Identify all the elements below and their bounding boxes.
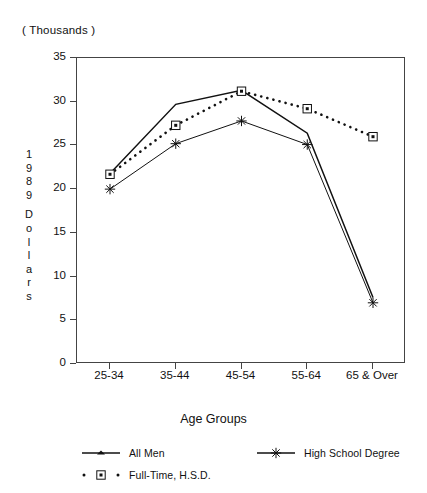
- plot-area: [76, 57, 405, 363]
- marker-boxed-dot: [369, 132, 377, 140]
- plot-canvas: [77, 58, 406, 364]
- y-axis-title: 1989Dollars: [22, 148, 36, 304]
- legend-item[interactable]: Full-Time, H.S.D.: [80, 469, 211, 481]
- y-tick-label: 35: [24, 51, 66, 63]
- legend-symbol-boxed-dot-icon: [80, 469, 122, 481]
- marker-star: [302, 139, 312, 149]
- legend-symbol-line-plain-icon: [80, 447, 122, 459]
- marker-boxed-dot: [237, 87, 245, 95]
- y-axis-title-char: o: [22, 222, 36, 236]
- marker-boxed-dot: [106, 170, 114, 178]
- marker-star: [105, 184, 115, 194]
- y-tick-label: 5: [24, 313, 66, 325]
- units-note: ( Thousands ): [22, 24, 95, 36]
- x-axis-title: Age Groups: [0, 412, 427, 426]
- legend-label: All Men: [129, 447, 165, 459]
- marker-boxed-dot: [97, 471, 105, 479]
- legend-label: High School Degree: [304, 447, 400, 459]
- x-tick-label: 35-44: [160, 369, 189, 381]
- y-tick-mark: [70, 363, 76, 364]
- legend-item[interactable]: All Men: [80, 447, 165, 459]
- chart-legend: All MenHigh School DegreeFull-Time, H.S.…: [0, 445, 427, 491]
- y-axis-title-char: l: [22, 249, 36, 263]
- y-axis-title-char: r: [22, 276, 36, 290]
- series-high-school-degree: [105, 116, 378, 308]
- series-full-time-h-s-d: [106, 87, 377, 178]
- x-tick-label: 65 & Over: [346, 369, 398, 381]
- marker-star: [171, 138, 181, 148]
- y-axis-title-char: 9: [22, 189, 36, 203]
- x-tick-label: 45-54: [226, 369, 255, 381]
- y-axis-title-char: 9: [22, 162, 36, 176]
- x-tick-label: 25-34: [94, 369, 123, 381]
- y-axis-title-char: a: [22, 263, 36, 277]
- marker-star: [368, 298, 378, 308]
- y-tick-label: 30: [24, 95, 66, 107]
- legend-item[interactable]: High School Degree: [255, 447, 400, 459]
- legend-symbol-star-icon: [255, 447, 297, 459]
- y-axis-title-char: 8: [22, 175, 36, 189]
- y-axis-title-char: l: [22, 236, 36, 250]
- y-axis-title-char: s: [22, 290, 36, 304]
- y-tick-label: 0: [24, 357, 66, 369]
- x-tick-label: 55-64: [292, 369, 321, 381]
- marker-star: [236, 116, 246, 126]
- marker-boxed-dot: [172, 121, 180, 129]
- y-axis-title-char: D: [22, 208, 36, 222]
- marker-star: [271, 448, 281, 458]
- chart-figure: ( Thousands ) 35302520151050 1989Dollars…: [0, 0, 427, 493]
- marker-boxed-dot: [303, 105, 311, 113]
- y-axis-title-char: 1: [22, 148, 36, 162]
- legend-label: Full-Time, H.S.D.: [129, 469, 211, 481]
